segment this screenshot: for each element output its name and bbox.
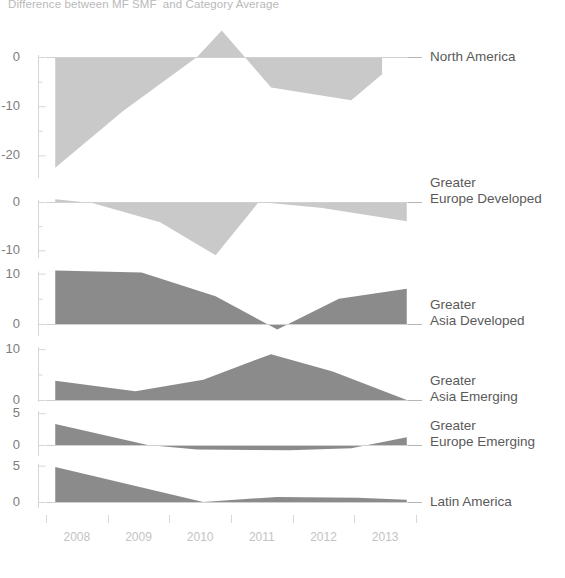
y-tick-label: 0: [13, 50, 20, 63]
series-label: Greater Asia Developed: [430, 297, 525, 329]
series-label: Latin America: [430, 494, 512, 510]
x-tick-mark: [293, 515, 294, 523]
chart-container: Difference between MF SMF* and Category …: [0, 0, 565, 578]
y-axis-labels: 0-10: [0, 188, 46, 260]
x-tick-mark: [354, 515, 355, 523]
y-tick-label: 5: [13, 406, 20, 419]
y-tick-label: 0: [13, 393, 20, 406]
chart-title: Difference between MF SMF* and Category …: [8, 0, 279, 10]
y-tick-label: 5: [13, 459, 20, 472]
x-tick-mark: [46, 515, 47, 523]
series-label: North America: [430, 49, 516, 65]
y-tick-label: -10: [1, 99, 20, 112]
series-area: [55, 424, 407, 450]
series-label: Greater Europe Developed: [430, 175, 542, 207]
x-axis: 200820092010201120122013: [0, 515, 565, 555]
area-plot: [0, 20, 565, 180]
x-tick-mark: [169, 515, 170, 523]
series-area: [55, 467, 407, 502]
series-area: [55, 271, 407, 330]
panel-greater-europe-emerging: 50Greater Europe Emerging: [0, 410, 565, 458]
series-label: Greater Asia Emerging: [430, 373, 518, 405]
panel-greater-asia-developed: 100Greater Asia Developed: [0, 266, 565, 338]
series-area: [55, 30, 382, 167]
y-axis-labels: 0-10-20: [0, 20, 46, 180]
y-tick-label: 0: [13, 438, 20, 451]
y-tick-label: -10: [1, 243, 20, 256]
panel-north-america: 0-10-20North America: [0, 20, 565, 180]
x-tick-mark: [108, 515, 109, 523]
y-axis-labels: 100: [0, 266, 46, 338]
x-tick-label: 2010: [177, 530, 223, 544]
y-tick-label: 0: [13, 495, 20, 508]
series-area: [55, 354, 407, 400]
panel-greater-europe-developed: 0-10Greater Europe Developed: [0, 188, 565, 260]
series-label: Greater Europe Emerging: [430, 418, 535, 450]
chart-title-tail: and Category Average: [159, 0, 279, 10]
y-axis-labels: 100: [0, 344, 46, 404]
y-axis-labels: 50: [0, 462, 46, 510]
x-tick-label: 2009: [116, 530, 162, 544]
y-tick-label: 10: [6, 342, 20, 355]
y-tick-label: 10: [6, 267, 20, 280]
y-tick-label: 0: [13, 195, 20, 208]
series-area: [55, 199, 407, 255]
x-tick-label: 2012: [301, 530, 347, 544]
y-tick-label: 0: [13, 317, 20, 330]
x-tick-mark: [416, 515, 417, 523]
panel-latin-america: 50Latin America: [0, 462, 565, 510]
x-tick-label: 2008: [54, 530, 100, 544]
y-axis-labels: 50: [0, 410, 46, 458]
x-tick-label: 2013: [362, 530, 408, 544]
chart-title-main: Difference between MF SMF: [8, 0, 157, 10]
panel-greater-asia-emerging: 100Greater Asia Emerging: [0, 344, 565, 404]
x-tick-mark: [231, 515, 232, 523]
x-tick-label: 2011: [239, 530, 285, 544]
y-tick-label: -20: [1, 148, 20, 161]
